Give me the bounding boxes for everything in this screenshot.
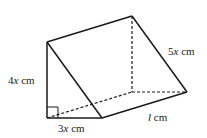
hypotenuse-label: 5x cm (168, 45, 195, 57)
bottom-right-length-edge (102, 92, 187, 118)
prism-diagram: 4x cm 3x cm 5x cm l cm (0, 0, 207, 138)
top-length-edge (47, 16, 132, 42)
length-label: l cm (148, 111, 168, 123)
height-label: 4x cm (8, 74, 35, 86)
base-label: 3x cm (58, 122, 85, 134)
hidden-edges (47, 16, 187, 118)
visible-edges (47, 16, 187, 118)
hidden-bottom-length-edge (47, 92, 132, 118)
